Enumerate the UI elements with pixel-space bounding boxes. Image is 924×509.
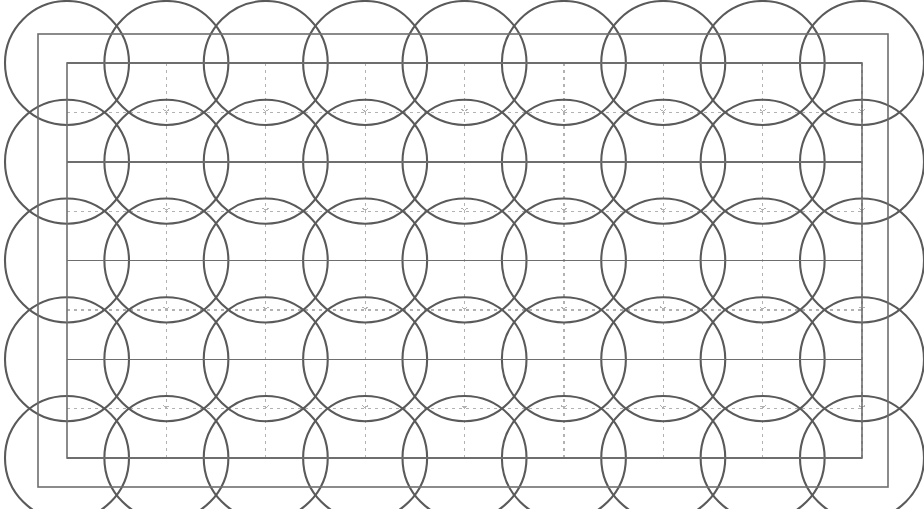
circle-grid-diagram: Overlapping circle grid construction dia… [0, 0, 924, 509]
canvas-background [0, 0, 924, 509]
figure-canvas: Overlapping circle grid construction dia… [0, 0, 924, 509]
